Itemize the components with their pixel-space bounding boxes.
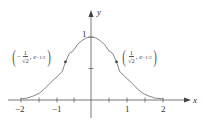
x-axis-label: x: [193, 96, 197, 105]
left-point-label: ( − 1 √2 , e−1/2 ): [11, 48, 52, 66]
right-fraction: 1 √2: [128, 50, 135, 65]
gaussian-curve: [21, 37, 163, 99]
right-denominator: √2: [128, 57, 135, 64]
right-paren: (: [122, 48, 126, 66]
right-paren-close: ): [153, 48, 157, 66]
left-inflection-point: [64, 60, 67, 63]
left-paren-close: ): [47, 48, 51, 66]
x-tick-label-1: 1: [125, 105, 130, 114]
left-sign: −: [17, 53, 21, 61]
x-tick-label-2: 2: [161, 105, 166, 114]
left-paren: (: [12, 48, 16, 66]
x-tick-label-neg2: −2: [15, 105, 25, 114]
y-tick-label-1: 1: [82, 30, 87, 39]
right-exponent: −1/2: [142, 55, 151, 60]
right-inflection-point: [115, 60, 118, 63]
left-fraction: 1 √2: [22, 50, 29, 65]
y-axis-arrow-icon: [89, 10, 94, 17]
left-denominator: √2: [22, 57, 29, 64]
y-axis-label: y: [97, 8, 101, 17]
right-point-label: ( 1 √2 , e−1/2 ): [121, 48, 158, 66]
x-axis-arrow-icon: [184, 98, 191, 103]
left-exponent: −1/2: [36, 55, 45, 60]
x-tick-label-neg1: −1: [52, 105, 62, 114]
